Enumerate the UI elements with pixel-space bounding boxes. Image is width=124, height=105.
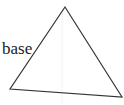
base-label: base: [2, 40, 32, 57]
